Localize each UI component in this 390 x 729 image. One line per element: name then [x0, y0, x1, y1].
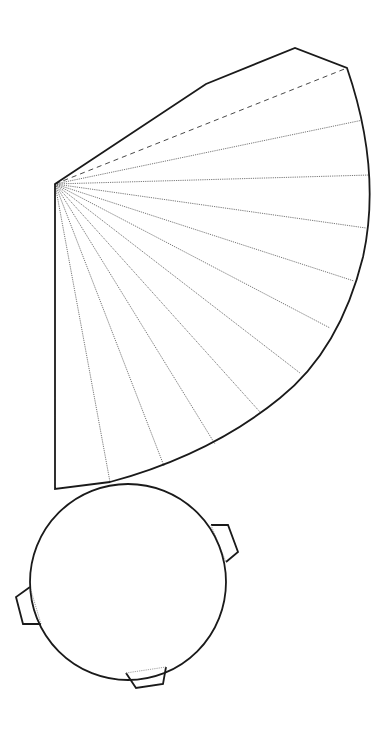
tab-fold-line — [30, 587, 41, 624]
dashed-seam-line — [55, 68, 347, 184]
fold-line — [55, 184, 260, 412]
fold-line — [55, 184, 366, 228]
fold-lines — [55, 120, 370, 482]
fold-line — [55, 184, 110, 482]
fold-line — [55, 175, 370, 184]
glue-tab-right — [211, 525, 238, 562]
tab-fold-line — [126, 667, 166, 673]
cone-sector — [55, 48, 370, 489]
fold-line — [55, 184, 354, 281]
fold-line — [55, 120, 363, 184]
base-circle-group — [16, 484, 238, 688]
base-circle — [30, 484, 226, 680]
cone-net-diagram — [0, 0, 390, 729]
glue-tabs — [16, 525, 238, 688]
sector-outline — [55, 48, 370, 489]
fold-line — [55, 184, 330, 328]
